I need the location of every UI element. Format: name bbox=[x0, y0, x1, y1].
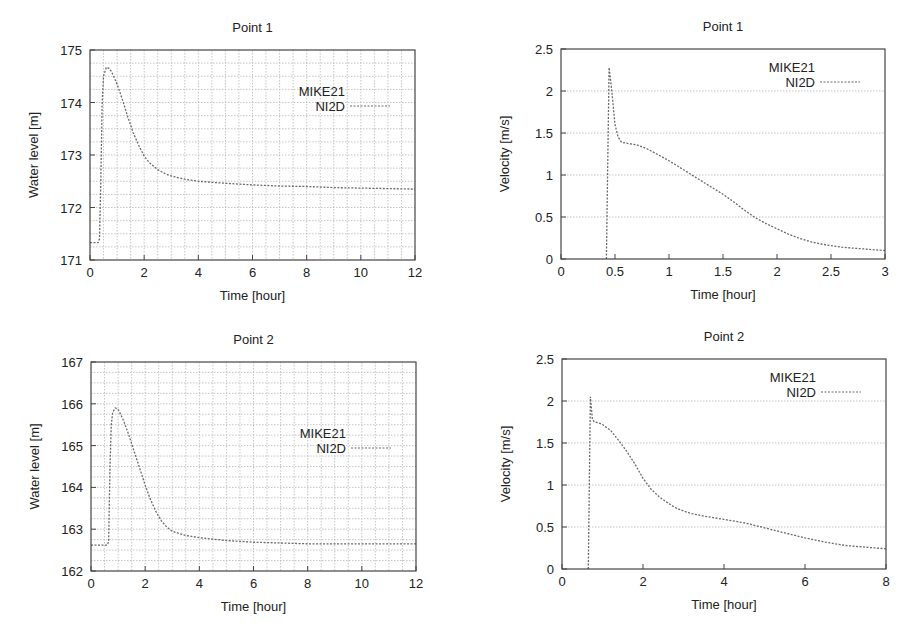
y-tick-label: 2 bbox=[546, 84, 553, 99]
x-tick-label: 2 bbox=[141, 265, 148, 280]
legend-label-ni2d: NI2D bbox=[316, 441, 346, 456]
y-tick-label: 1.5 bbox=[536, 436, 554, 451]
legend-label-mike21: MIKE21 bbox=[299, 84, 345, 99]
x-tick-label: 8 bbox=[882, 574, 889, 589]
x-tick-label: 2.5 bbox=[822, 264, 840, 279]
x-tick-label: 10 bbox=[355, 576, 369, 591]
chart-velocity-point-1: 00.511.522.5300.511.522.5Point 1Time [ho… bbox=[497, 19, 889, 302]
x-tick-label: 4 bbox=[196, 576, 203, 591]
x-tick-label: 0 bbox=[558, 574, 565, 589]
y-tick-label: 173 bbox=[60, 148, 82, 163]
x-tick-label: 12 bbox=[408, 265, 422, 280]
y-tick-label: 1.5 bbox=[535, 126, 553, 141]
legend-label-mike21: MIKE21 bbox=[770, 370, 816, 385]
x-tick-label: 4 bbox=[720, 574, 727, 589]
x-tick-label: 2 bbox=[142, 576, 149, 591]
x-axis-label: Time [hour] bbox=[221, 599, 286, 614]
y-tick-label: 1 bbox=[546, 168, 553, 183]
legend-label-ni2d: NI2D bbox=[786, 385, 816, 400]
x-tick-label: 6 bbox=[801, 574, 808, 589]
legend-label-ni2d: NI2D bbox=[315, 99, 345, 114]
legend: MIKE21NI2D bbox=[769, 60, 860, 90]
x-tick-label: 8 bbox=[303, 265, 310, 280]
y-axis-label: Velocity [m/s] bbox=[498, 426, 513, 503]
y-tick-label: 0 bbox=[547, 562, 554, 577]
legend-label-mike21: MIKE21 bbox=[769, 60, 815, 75]
y-tick-label: 174 bbox=[60, 96, 82, 111]
x-tick-label: 3 bbox=[881, 264, 888, 279]
series-line-ni2d bbox=[606, 68, 885, 260]
grid bbox=[562, 401, 886, 527]
y-axis-label: Water level [m] bbox=[26, 112, 41, 198]
legend: MIKE21NI2D bbox=[299, 84, 390, 114]
y-tick-label: 165 bbox=[61, 439, 83, 454]
x-tick-label: 2 bbox=[639, 574, 646, 589]
legend-label-mike21: MIKE21 bbox=[300, 426, 346, 441]
y-tick-label: 0.5 bbox=[536, 520, 554, 535]
legend: MIKE21NI2D bbox=[300, 426, 391, 456]
x-tick-label: 10 bbox=[354, 265, 368, 280]
y-tick-label: 171 bbox=[60, 253, 82, 268]
y-tick-label: 162 bbox=[61, 564, 83, 579]
x-tick-label: 0 bbox=[87, 576, 94, 591]
y-tick-label: 163 bbox=[61, 522, 83, 537]
x-tick-label: 1.5 bbox=[714, 264, 732, 279]
y-tick-label: 2.5 bbox=[536, 352, 554, 367]
x-tick-label: 2 bbox=[773, 264, 780, 279]
grid bbox=[561, 91, 885, 217]
y-axis-label: Water level [m] bbox=[27, 423, 42, 509]
y-tick-label: 1 bbox=[547, 478, 554, 493]
chart-title: Point 1 bbox=[703, 19, 743, 34]
grid bbox=[90, 50, 415, 260]
series-line-ni2d bbox=[588, 397, 886, 569]
y-tick-label: 2.5 bbox=[535, 42, 553, 57]
x-tick-label: 0 bbox=[557, 264, 564, 279]
x-tick-label: 1 bbox=[665, 264, 672, 279]
x-tick-label: 8 bbox=[304, 576, 311, 591]
y-tick-label: 0 bbox=[546, 252, 553, 267]
y-tick-label: 2 bbox=[547, 394, 554, 409]
x-axis-label: Time [hour] bbox=[220, 288, 285, 303]
chart-title: Point 2 bbox=[704, 329, 744, 344]
x-tick-label: 0 bbox=[86, 265, 93, 280]
chart-water-level-point-1: 024681012171172173174175Point 1Time [hou… bbox=[26, 20, 422, 303]
y-tick-label: 164 bbox=[61, 480, 83, 495]
legend-label-ni2d: NI2D bbox=[785, 75, 815, 90]
x-tick-label: 6 bbox=[250, 576, 257, 591]
plot-frame bbox=[562, 359, 886, 569]
plot-frame bbox=[561, 49, 885, 259]
x-tick-label: 12 bbox=[409, 576, 423, 591]
y-tick-label: 167 bbox=[61, 355, 83, 370]
x-axis-label: Time [hour] bbox=[690, 287, 755, 302]
legend: MIKE21NI2D bbox=[770, 370, 861, 400]
x-tick-label: 0.5 bbox=[606, 264, 624, 279]
x-tick-label: 6 bbox=[249, 265, 256, 280]
chart-title: Point 2 bbox=[233, 332, 273, 347]
chart-title: Point 1 bbox=[232, 20, 272, 35]
chart-water-level-point-2: 024681012162163164165166167Point 2Time [… bbox=[27, 332, 423, 614]
x-axis-label: Time [hour] bbox=[691, 597, 756, 612]
x-tick-label: 4 bbox=[195, 265, 202, 280]
y-tick-label: 0.5 bbox=[535, 210, 553, 225]
figure: 024681012171172173174175Point 1Time [hou… bbox=[0, 0, 906, 633]
chart-velocity-point-2: 0246800.511.522.5Point 2Time [hour]Veloc… bbox=[498, 329, 890, 612]
y-tick-label: 172 bbox=[60, 201, 82, 216]
y-tick-label: 175 bbox=[60, 43, 82, 58]
y-tick-label: 166 bbox=[61, 397, 83, 412]
y-axis-label: Velocity [m/s] bbox=[497, 116, 512, 193]
